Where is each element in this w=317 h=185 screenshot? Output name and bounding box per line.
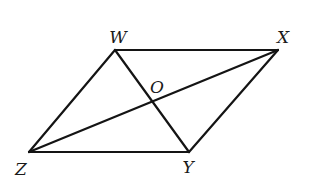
side-zw <box>29 50 115 152</box>
vertex-label-z: Z <box>15 161 27 178</box>
intersection-label-o: O <box>150 79 164 96</box>
vertex-label-w: W <box>109 29 126 46</box>
side-xy <box>189 50 278 152</box>
vertex-label-y: Y <box>182 159 193 176</box>
vertex-label-x: X <box>277 29 289 46</box>
diagonal-zx <box>29 50 278 152</box>
